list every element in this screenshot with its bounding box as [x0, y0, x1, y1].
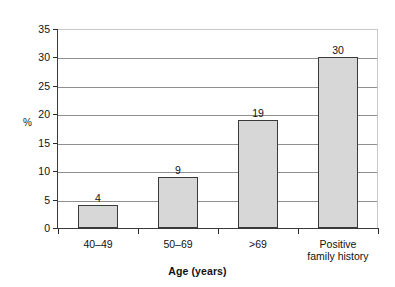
bar — [318, 57, 358, 228]
x-axis-title: Age (years) — [0, 265, 395, 277]
x-axis-tick-label: Positive family history — [286, 238, 390, 262]
bar-value-label: 19 — [252, 108, 264, 119]
bar-value-label: 9 — [175, 165, 181, 176]
bar-group: 19 — [218, 30, 298, 228]
y-axis-tick-label: 20 — [20, 109, 50, 119]
x-axis-tick-mark — [138, 229, 139, 234]
bar-group: 9 — [138, 30, 218, 228]
bar — [78, 205, 118, 228]
y-axis-tick-label: 10 — [20, 166, 50, 176]
plot-area: 491930 — [58, 29, 378, 228]
y-axis-tick-label: 0 — [20, 223, 50, 233]
x-axis-tick-mark — [298, 229, 299, 234]
bar-group: 30 — [298, 30, 378, 228]
y-axis-tick-label: 5 — [20, 195, 50, 205]
x-axis-tick-mark — [58, 229, 59, 234]
bar — [238, 120, 278, 228]
bar-value-label: 30 — [332, 45, 344, 56]
y-axis-tick-label: 35 — [20, 24, 50, 34]
bar — [158, 177, 198, 228]
y-axis-tick-label: 25 — [20, 81, 50, 91]
bar-group: 4 — [58, 30, 138, 228]
bar-chart-figure: % 05101520253035 491930 40–4950–69>69Pos… — [0, 0, 395, 287]
bar-value-label: 4 — [95, 193, 101, 204]
x-axis-tick-mark — [378, 229, 379, 234]
y-axis-tick-label: 15 — [20, 138, 50, 148]
y-axis-tick-label: 30 — [20, 52, 50, 62]
x-axis-tick-mark — [218, 229, 219, 234]
